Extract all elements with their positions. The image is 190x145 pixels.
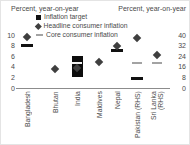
legend-label: Core consumer inflation (46, 31, 118, 39)
legend-item-headline: Headline consumer inflation (36, 22, 127, 30)
square-icon (36, 15, 41, 20)
inflation-target-marker (21, 44, 33, 47)
left-axis-tick-label: 4 (2, 63, 15, 70)
left-axis-title: Percent, year-on-year (11, 5, 79, 13)
x-axis-category-label: Sri Lanka (RHS) (150, 91, 164, 139)
headline-inflation-marker (133, 33, 141, 41)
x-axis-category-label: Bhutan (52, 91, 59, 139)
x-axis-line (16, 88, 170, 89)
x-axis-category-label: Maldives (96, 91, 103, 139)
core-inflation-marker (132, 62, 142, 64)
right-axis-title: Percent, year-on-year (118, 5, 186, 13)
x-axis-category-label: India (74, 91, 81, 139)
right-axis-tick-label: 8 (171, 74, 186, 81)
right-axis-tick-label: 0 (171, 85, 186, 92)
legend-item-core: Core consumer inflation (36, 31, 118, 39)
headline-inflation-marker (95, 57, 103, 65)
headline-inflation-marker (51, 65, 59, 73)
dash-icon (36, 34, 43, 36)
left-axis-tick-label: 0 (2, 85, 15, 92)
legend-item-inflation_target: Inflation target (36, 13, 87, 21)
left-axis-tick-label: 10 (2, 32, 15, 39)
right-axis-tick-label: 24 (171, 53, 186, 60)
diamond-icon (35, 23, 41, 29)
headline-inflation-marker (23, 32, 31, 40)
right-axis-tick-label: 32 (171, 42, 186, 49)
headline-inflation-marker (153, 51, 161, 59)
x-axis-category-label: Pakistan (RHS) (134, 91, 141, 139)
legend-label: Headline consumer inflation (44, 22, 128, 30)
legend-label: Inflation target (44, 13, 87, 21)
right-axis-tick-label: 40 (171, 32, 186, 39)
x-axis-category-label: Bangladesh (24, 91, 31, 139)
right-axis-tick-label: 16 (171, 63, 186, 70)
x-axis-category-label: Nepal (114, 91, 121, 139)
core-inflation-marker (152, 62, 162, 64)
left-axis-tick-label: 6 (2, 53, 15, 60)
inflation-target-marker (131, 77, 143, 80)
left-axis-tick-label: 2 (2, 74, 15, 81)
left-axis-tick-label: 8 (2, 42, 15, 49)
